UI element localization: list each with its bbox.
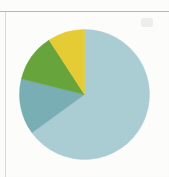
chart-canvas: [0, 0, 169, 177]
page-rule-horizontal: [0, 11, 169, 12]
pie-slice-group: [19, 30, 149, 160]
page-rule-vertical: [5, 12, 6, 177]
pie-chart: [19, 29, 150, 160]
pie-chart-svg: [19, 29, 150, 160]
scan-artifact: [141, 18, 153, 27]
